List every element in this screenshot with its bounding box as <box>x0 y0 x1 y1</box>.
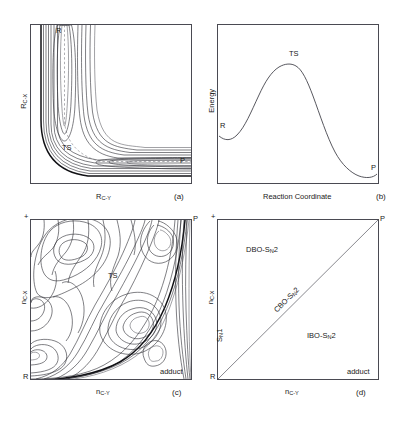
panel-d-x-axis-label: nC-Y <box>285 388 299 397</box>
figure-root: R TS P RC-X RC-Y (a) R TS P Energy React… <box>0 0 402 426</box>
panel-c: + P R adduct TS nC-X nC-Y (c) <box>0 213 201 426</box>
panel-d-region-ibo-text: IBO-S <box>307 331 327 340</box>
panel-a-label-ts: TS <box>62 144 72 152</box>
panel-d-region-ibo: IBO-SN2 <box>307 332 336 341</box>
panel-c-corner-top-left: + <box>24 213 28 221</box>
panel-d-corner-top-right: P <box>380 215 385 223</box>
panel-d-region-sn1-sup: 1 <box>215 329 224 333</box>
panel-c-corner-bottom-right: adduct <box>160 368 183 376</box>
panel-d-region-sn1-text: S <box>215 337 224 342</box>
panel-d-region-dbo: DBO-SN2 <box>246 246 278 255</box>
panel-d-region-dbo-text: DBO-S <box>246 245 270 254</box>
panel-b-x-axis-label: Reaction Coordinate <box>263 193 331 201</box>
panel-d-corner-bottom-right: adduct <box>347 368 370 376</box>
panel-d-diagonal <box>201 213 402 426</box>
panel-d-y-axis-subscript: C-X <box>209 290 215 300</box>
panel-d-y-axis-symbol: n <box>206 300 215 304</box>
panel-b-label-product: P <box>371 164 376 172</box>
panel-d-region-sn1-sub: N <box>218 333 224 337</box>
panel-a-contours <box>0 0 201 213</box>
panel-c-corner-top-right: P <box>193 215 198 223</box>
panel-d-region-dbo-sup: 2 <box>274 245 278 254</box>
panel-c-y-axis-label: nC-X <box>20 277 29 317</box>
panel-c-x-axis-subscript: C-Y <box>100 390 110 396</box>
panel-d-corner-bottom-left: R <box>210 373 215 381</box>
panel-a-x-axis-label: RC-Y <box>96 193 111 202</box>
panel-c-y-axis-symbol: n <box>19 300 28 304</box>
panel-b-label-reactant: R <box>220 122 225 130</box>
panel-a: R TS P RC-X RC-Y (a) <box>0 0 201 213</box>
panel-a-y-axis-symbol: R <box>19 103 28 108</box>
panel-c-corner-bottom-left: R <box>23 373 28 381</box>
panel-c-caption: (c) <box>172 388 181 397</box>
panel-d-region-sn1: SN1 <box>216 323 225 347</box>
panel-b-y-axis-label: Energy <box>208 81 216 121</box>
panel-c-y-axis-subscript: C-X <box>22 290 28 300</box>
panel-b: R TS P Energy Reaction Coordinate (b) <box>201 0 402 213</box>
panel-a-label-reactant: R <box>56 27 61 35</box>
panel-a-caption: (a) <box>174 192 184 201</box>
panel-b-label-ts: TS <box>289 50 299 58</box>
panel-c-label-ts: TS <box>108 272 118 280</box>
panel-b-energy-curve <box>201 0 402 213</box>
panel-a-y-axis-subscript: C-X <box>22 94 28 104</box>
panel-a-x-axis-subscript: C-Y <box>101 195 111 201</box>
panel-c-x-axis-label: nC-Y <box>96 388 110 397</box>
panel-d-corner-top-left: + <box>211 213 215 221</box>
panel-a-y-axis-label: RC-X <box>20 81 29 121</box>
panel-d-y-axis-label: nC-X <box>207 277 216 317</box>
panel-d: + P R adduct DBO-SN2 CBO-SN2 IBO-SN2 SN1… <box>201 213 402 426</box>
panel-d-region-ibo-sup: 2 <box>331 331 335 340</box>
panel-a-label-product: P <box>180 157 185 165</box>
panel-d-x-axis-subscript: C-Y <box>289 390 299 396</box>
panel-d-caption: (d) <box>356 388 366 397</box>
panel-b-caption: (b) <box>376 192 386 201</box>
